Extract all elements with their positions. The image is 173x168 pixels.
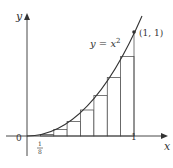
curve-label-base: y = x bbox=[89, 38, 116, 49]
curve-label-exponent: 2 bbox=[116, 37, 120, 45]
origin-label: 0 bbox=[16, 133, 22, 143]
rectangles bbox=[40, 56, 134, 136]
tick-one-label: 1 bbox=[131, 132, 137, 142]
x-axis-arrow-icon bbox=[161, 133, 168, 139]
y-axis-label: y bbox=[15, 10, 23, 23]
rectangle-6 bbox=[94, 95, 107, 136]
tick-eighth-denominator: 8 bbox=[38, 148, 42, 155]
rectangle-8 bbox=[121, 56, 134, 136]
rectangle-5 bbox=[81, 110, 94, 136]
point-1-1 bbox=[132, 30, 136, 34]
rectangle-3 bbox=[54, 130, 67, 137]
rectangle-7 bbox=[107, 78, 120, 137]
curve-label: y = x2 bbox=[89, 37, 121, 49]
y-axis-arrow-icon bbox=[24, 13, 30, 20]
point-label: (1, 1) bbox=[139, 28, 163, 38]
rectangle-4 bbox=[67, 121, 80, 136]
x-axis-label: x bbox=[164, 140, 171, 153]
riemann-sum-diagram: y x 0 1 1 8 y = x2 (1, 1) bbox=[0, 0, 173, 168]
tick-eighth-numerator: 1 bbox=[38, 140, 42, 147]
